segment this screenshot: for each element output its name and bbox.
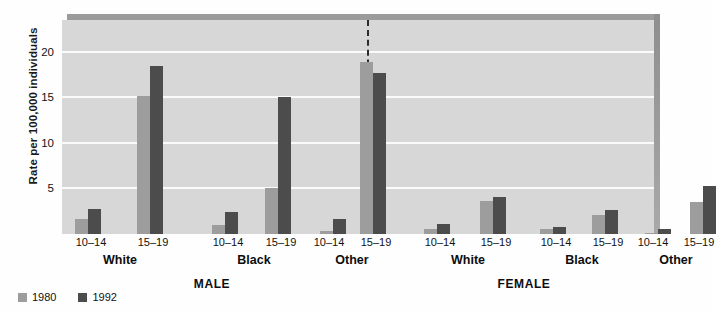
x-axis-age-label: 10–14	[213, 236, 244, 248]
bar-1992-male-white	[150, 66, 163, 234]
x-axis-age-label: 15–19	[266, 236, 297, 248]
bar-1992-female-white	[493, 197, 506, 234]
bar-1980-male-white	[75, 219, 88, 234]
legend-item: 1980	[18, 291, 56, 303]
x-axis-age-label: 10–14	[425, 236, 456, 248]
bar-1980-male-black	[265, 188, 278, 234]
y-axis-tick-label: 5	[48, 182, 54, 194]
x-axis-age-label: 15–19	[361, 236, 392, 248]
x-axis-age-label: 10–14	[76, 236, 107, 248]
x-axis-age-label: 15–19	[593, 236, 624, 248]
x-axis-race-label: Black	[565, 253, 598, 267]
x-axis-race-label: White	[103, 253, 137, 267]
bar-1980-female-other	[690, 202, 703, 234]
bar-1980-male-black	[212, 225, 225, 234]
plot-area	[62, 14, 660, 234]
bar-1980-male-white	[137, 96, 150, 234]
legend-label: 1992	[92, 291, 116, 303]
x-axis-group-labels: WhiteBlackOtherWhiteBlackOther	[0, 253, 713, 273]
bar-1992-female-black	[553, 227, 566, 234]
bar-1992-female-other	[703, 186, 716, 234]
bar-1992-male-black	[278, 97, 291, 234]
bar-1992-female-white	[437, 224, 450, 234]
plot-canvas	[62, 20, 654, 234]
x-axis-age-label: 10–14	[314, 236, 345, 248]
x-axis-race-label: Other	[335, 253, 368, 267]
plot-right-shadow	[654, 14, 660, 234]
y-axis-tick-label: 15	[41, 91, 54, 103]
bar-1992-male-white	[88, 209, 101, 234]
bar-1992-female-other	[658, 229, 671, 234]
bar-1980-male-other	[360, 62, 373, 234]
x-axis-race-label: Other	[659, 253, 692, 267]
bar-1980-female-white	[480, 201, 493, 234]
x-axis-age-label: 10–14	[638, 236, 669, 248]
x-axis-age-label: 15–19	[684, 236, 715, 248]
bar-1992-male-black	[225, 212, 238, 234]
bar-1992-male-other	[333, 219, 346, 234]
legend-swatch-icon	[78, 293, 87, 302]
bar-1980-female-white	[424, 229, 437, 234]
y-axis-tick-label: 10	[41, 137, 54, 149]
x-axis-age-label: 15–19	[138, 236, 169, 248]
bar-1992-male-other	[373, 73, 386, 234]
x-axis-race-label: White	[451, 253, 485, 267]
bar-1980-female-black	[540, 229, 553, 234]
x-axis-age-label: 15–19	[481, 236, 512, 248]
x-axis-sex-label: MALE	[194, 277, 230, 291]
bar-1980-male-other	[320, 231, 333, 234]
x-axis-tick-labels: 10–1415–1910–1415–1910–1415–1910–1415–19…	[0, 236, 713, 254]
x-axis-sex-label: FEMALE	[498, 277, 551, 291]
x-axis-age-label: 10–14	[541, 236, 572, 248]
bar-1980-female-other	[645, 233, 658, 234]
legend-item: 1992	[78, 291, 116, 303]
chart-legend: 19801992	[18, 291, 117, 303]
gridline	[62, 51, 654, 53]
bar-1992-female-black	[605, 210, 618, 234]
legend-swatch-icon	[18, 293, 27, 302]
bar-1980-female-black	[592, 215, 605, 234]
x-axis-race-label: Black	[237, 253, 270, 267]
y-axis-tick-label: 20	[41, 46, 54, 58]
legend-label: 1980	[32, 291, 56, 303]
